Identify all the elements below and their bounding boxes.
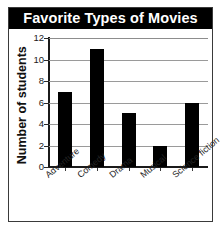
gridline	[49, 38, 208, 39]
y-tick-mark	[44, 146, 49, 147]
chart-figure: Favorite Types of Movies Number of stude…	[0, 0, 222, 231]
y-tick-label: 8	[22, 76, 44, 86]
y-tick-mark	[44, 167, 49, 168]
y-tick-label: 6	[22, 98, 44, 108]
y-tick-label: 12	[22, 33, 44, 43]
y-tick-mark	[44, 124, 49, 125]
y-tick-label: 0	[22, 162, 44, 172]
x-tick-mark	[65, 168, 66, 171]
gridline	[49, 81, 208, 82]
y-tick-label: 2	[22, 141, 44, 151]
y-tick-mark	[44, 81, 49, 82]
y-tick-label: 10	[22, 55, 44, 65]
y-tick-mark	[44, 103, 49, 104]
gridline	[49, 60, 208, 61]
y-tick-label: 4	[22, 119, 44, 129]
y-tick-mark	[44, 38, 49, 39]
x-tick-mark	[97, 168, 98, 171]
x-tick-mark	[192, 168, 193, 171]
bar	[90, 49, 104, 167]
y-tick-mark	[44, 60, 49, 61]
x-tick-mark	[129, 168, 130, 171]
y-axis-tick-labels: 024681012	[20, 0, 44, 231]
chart-title: Favorite Types of Movies	[23, 11, 198, 26]
x-tick-mark	[160, 168, 161, 171]
